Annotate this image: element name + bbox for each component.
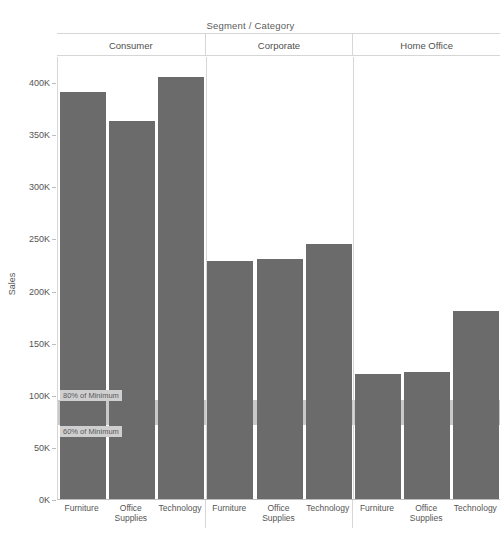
x-axis-label-furniture: Furniture bbox=[352, 503, 401, 513]
y-axis-tick-label: 150K bbox=[14, 339, 50, 349]
y-axis-tick-label: 50K bbox=[14, 443, 50, 453]
y-axis-tick-label: 300K bbox=[14, 182, 50, 192]
y-axis-tick-mark bbox=[52, 344, 56, 345]
y-axis-tick-mark bbox=[52, 83, 56, 84]
y-axis-tick-mark bbox=[52, 500, 56, 501]
y-axis-tick-label: 100K bbox=[14, 391, 50, 401]
y-axis-tick-label: 350K bbox=[14, 130, 50, 140]
y-axis: 0K50K100K150K200K250K300K350K400K bbox=[0, 0, 501, 559]
y-axis-tick-mark bbox=[52, 292, 56, 293]
y-axis-tick-mark bbox=[52, 239, 56, 240]
y-axis-tick-mark bbox=[52, 396, 56, 397]
y-axis-tick-label: 400K bbox=[14, 78, 50, 88]
chart-container: Segment / Category ConsumerCorporateHome… bbox=[0, 0, 501, 559]
x-axis-label-furniture: Furniture bbox=[205, 503, 254, 513]
y-axis-tick-mark bbox=[52, 187, 56, 188]
x-axis-label-technology: Technology bbox=[155, 503, 204, 513]
x-axis-label-office-supplies: Office Supplies bbox=[402, 503, 451, 523]
y-axis-title: Sales bbox=[7, 254, 17, 314]
y-axis-tick-label: 250K bbox=[14, 234, 50, 244]
x-axis-panel-divider bbox=[205, 500, 206, 528]
x-axis-label-technology: Technology bbox=[303, 503, 352, 513]
y-axis-tick-mark bbox=[52, 135, 56, 136]
x-axis-label-furniture: Furniture bbox=[57, 503, 106, 513]
x-axis-label-office-supplies: Office Supplies bbox=[254, 503, 303, 523]
x-axis-label-office-supplies: Office Supplies bbox=[106, 503, 155, 523]
x-axis-panel-divider bbox=[352, 500, 353, 528]
x-axis-label-technology: Technology bbox=[451, 503, 500, 513]
y-axis-tick-label: 200K bbox=[14, 287, 50, 297]
y-axis-tick-mark bbox=[52, 448, 56, 449]
y-axis-tick-label: 0K bbox=[14, 495, 50, 505]
